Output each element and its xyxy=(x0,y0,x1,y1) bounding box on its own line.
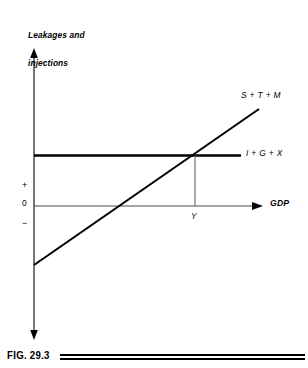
x-axis-right-arrow-icon xyxy=(252,202,263,210)
injections-curve-label: I + G + X xyxy=(246,149,283,158)
y-axis-title-line-1: Leakages and xyxy=(28,31,85,40)
y-axis-title-line-2: injections xyxy=(28,59,85,68)
x-axis-title: GDP xyxy=(270,199,289,209)
equilibrium-x-label: Y xyxy=(191,212,196,221)
y-axis-down-arrow-icon xyxy=(30,330,38,340)
y-axis-title: Leakages and injections xyxy=(28,12,85,87)
figure-caption: FIG. 29.3 xyxy=(0,345,308,368)
y-tick-zero: 0 xyxy=(22,199,27,208)
caption-rule-upper xyxy=(60,354,305,356)
y-tick-positive: + xyxy=(22,180,27,190)
leakages-curve-label: S + T + M xyxy=(241,91,281,100)
leakages-line-s-t-m xyxy=(34,109,259,265)
caption-rule-lower xyxy=(60,358,305,360)
y-tick-negative: − xyxy=(22,218,27,228)
economics-figure: Leakages and injections GDP S + T + M I … xyxy=(0,0,308,368)
figure-caption-text: FIG. 29.3 xyxy=(7,349,50,361)
